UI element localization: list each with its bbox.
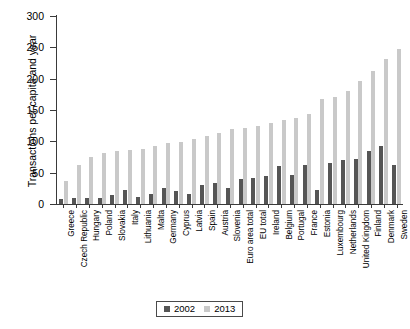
bar-group xyxy=(328,16,337,204)
x-tick-mark xyxy=(179,204,180,208)
x-tick-label: Luxembourg xyxy=(336,210,345,282)
bar-2002-denmark xyxy=(379,146,383,204)
x-tick-label: Slovakia xyxy=(118,210,127,282)
bar-2013-euro-area-total xyxy=(243,128,247,204)
x-tick-mark xyxy=(256,204,257,208)
x-tick-label: Latvia xyxy=(195,210,204,282)
bar-2002-euro-area-total xyxy=(239,179,243,204)
bar-group xyxy=(392,16,401,204)
plot-area xyxy=(57,16,403,204)
x-tick-mark xyxy=(320,204,321,208)
bar-2002-estonia xyxy=(315,190,319,204)
bar-2002-spain xyxy=(200,185,204,204)
bar-2013-united-kingdom xyxy=(358,81,362,204)
x-tick-mark xyxy=(89,204,90,208)
x-tick-mark xyxy=(76,204,77,208)
legend-swatch-icon xyxy=(204,306,210,312)
bar-group xyxy=(239,16,248,204)
bar-2013-czech-republic xyxy=(77,165,81,204)
bar-group xyxy=(110,16,119,204)
x-tick-mark xyxy=(397,204,398,208)
x-tick-label: Malta xyxy=(157,210,166,282)
bar-2002-cyprus xyxy=(174,191,178,204)
x-tick-mark xyxy=(243,204,244,208)
bar-2002-sweden xyxy=(392,165,396,204)
bar-2013-luxembourg xyxy=(333,97,337,204)
x-tick-label: Finland xyxy=(374,210,383,282)
x-tick-mark xyxy=(204,204,205,208)
x-tick-mark xyxy=(281,204,282,208)
bar-2002-netherlands xyxy=(341,160,345,204)
y-tick-label: 50 xyxy=(0,168,44,178)
x-tick-label: Lithuania xyxy=(144,210,153,282)
x-tick-mark xyxy=(102,204,103,208)
bar-2013-austria xyxy=(217,133,221,204)
bar-group xyxy=(315,16,324,204)
y-tick-mark xyxy=(50,141,56,142)
bar-group xyxy=(354,16,363,204)
bar-group xyxy=(123,16,132,204)
bar-2013-latvia xyxy=(192,139,196,204)
x-tick-label: Ireland xyxy=(272,210,281,282)
bar-2002-malta xyxy=(149,194,153,204)
x-tick-mark xyxy=(358,204,359,208)
bar-2013-slovenia xyxy=(230,129,234,204)
x-tick-label: Denmark xyxy=(387,210,396,282)
x-tick-mark xyxy=(63,204,64,208)
bar-2002-latvia xyxy=(187,194,191,204)
x-tick-mark xyxy=(115,204,116,208)
y-tick-mark xyxy=(50,204,56,205)
bar-group xyxy=(290,16,299,204)
x-tick-mark xyxy=(127,204,128,208)
x-tick-mark xyxy=(294,204,295,208)
bar-group xyxy=(187,16,196,204)
legend-item-2013: 2013 xyxy=(204,304,235,314)
bar-2013-eu-total xyxy=(256,126,260,204)
x-tick-label: Spain xyxy=(208,210,217,282)
x-tick-label: France xyxy=(310,210,319,282)
bar-group xyxy=(85,16,94,204)
bar-2013-malta xyxy=(153,146,157,204)
x-tick-label: EU total xyxy=(259,210,268,282)
bar-group xyxy=(367,16,376,204)
x-tick-label: Sweden xyxy=(400,210,409,282)
x-tick-label: Slovenia xyxy=(233,210,242,282)
bar-2013-portugal xyxy=(294,118,298,204)
legend: 20022013 xyxy=(156,301,243,317)
bar-chart: Transactions per capita and year 0501001… xyxy=(0,0,410,329)
x-tick-label: Czech Republic xyxy=(80,210,89,282)
x-tick-mark xyxy=(153,204,154,208)
x-tick-label: Hungary xyxy=(92,210,101,282)
bar-2013-poland xyxy=(102,153,106,204)
bar-2013-netherlands xyxy=(346,91,350,204)
x-tick-mark xyxy=(384,204,385,208)
y-tick-mark xyxy=(50,110,56,111)
x-tick-label: Poland xyxy=(105,210,114,282)
bar-group xyxy=(98,16,107,204)
bar-group xyxy=(251,16,260,204)
bar-2013-greece xyxy=(64,181,68,204)
bar-group xyxy=(162,16,171,204)
legend-label: 2002 xyxy=(174,304,195,314)
bar-group xyxy=(226,16,235,204)
bar-2013-slovakia xyxy=(115,151,119,204)
x-tick-label: Austria xyxy=(221,210,230,282)
x-tick-label: Netherlands xyxy=(349,210,358,282)
bar-group xyxy=(303,16,312,204)
x-tick-label: Cyprus xyxy=(182,210,191,282)
y-tick-mark xyxy=(50,47,56,48)
y-tick-label: 150 xyxy=(0,105,44,115)
bar-2002-austria xyxy=(213,183,217,204)
bar-group xyxy=(277,16,286,204)
bar-2002-united-kingdom xyxy=(354,159,358,204)
bar-2013-finland xyxy=(371,71,375,204)
bar-2013-sweden xyxy=(397,49,401,204)
bar-2002-slovenia xyxy=(226,188,230,204)
bar-2013-spain xyxy=(205,136,209,204)
bar-2002-eu-total xyxy=(251,178,255,204)
x-tick-label: Estonia xyxy=(323,210,332,282)
bar-2002-ireland xyxy=(264,176,268,204)
y-tick-label: 0 xyxy=(0,199,44,209)
bar-2013-cyprus xyxy=(179,142,183,204)
x-tick-label: United Kingdom xyxy=(362,210,371,282)
